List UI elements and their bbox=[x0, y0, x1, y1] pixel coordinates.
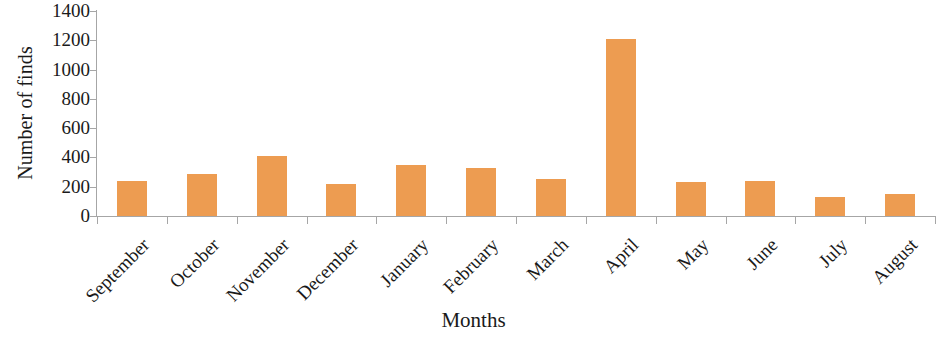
x-axis-tick-label-text: October bbox=[166, 235, 223, 292]
x-axis-title: Months bbox=[0, 308, 947, 332]
x-axis-tick-label-text: November bbox=[222, 235, 292, 305]
x-axis-tick-label-text: May bbox=[673, 235, 711, 273]
x-axis-tick-label-text: June bbox=[743, 235, 781, 273]
x-axis-tick-label-text: September bbox=[82, 235, 153, 306]
x-axis-tick-label-text: December bbox=[293, 235, 362, 304]
x-axis-tick-labels: SeptemberOctoberNovemberDecemberJanuaryF… bbox=[0, 0, 947, 342]
bar-chart: Number of finds 140012001000800600400200… bbox=[0, 0, 947, 342]
x-axis-tick-label-text: August bbox=[869, 235, 921, 287]
x-axis-tick-label-text: February bbox=[440, 235, 502, 297]
x-axis-tick-label-text: April bbox=[600, 235, 642, 277]
x-axis-tick-label-text: January bbox=[377, 235, 432, 290]
x-axis-tick-label-text: March bbox=[523, 235, 572, 284]
x-axis-tick-label-text: July bbox=[815, 235, 851, 271]
